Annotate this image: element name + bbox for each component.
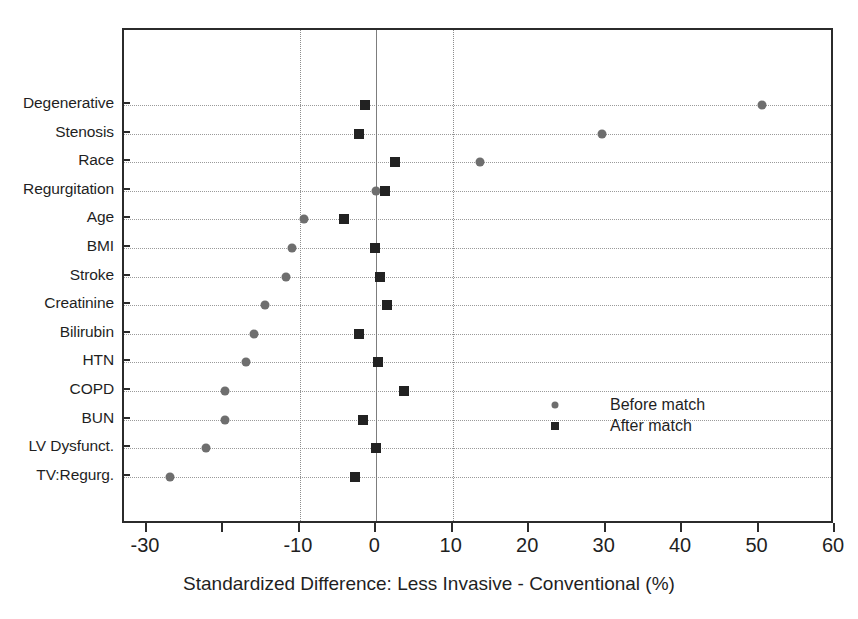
x-axis-tick — [680, 523, 682, 532]
y-axis-tick — [122, 216, 130, 218]
data-point-before-match — [282, 272, 291, 281]
data-point-after-match — [399, 386, 409, 396]
horizontal-gridline — [124, 448, 831, 449]
data-point-before-match — [220, 415, 229, 424]
chart-figure: DegenerativeStenosisRaceRegurgitationAge… — [0, 0, 858, 619]
data-point-before-match — [242, 358, 251, 367]
data-point-after-match — [339, 214, 349, 224]
data-point-after-match — [375, 272, 385, 282]
legend-item-before-match: Before match — [545, 394, 775, 415]
legend-item-after-match: After match — [545, 415, 775, 436]
data-point-before-match — [249, 329, 258, 338]
y-axis-tick — [122, 274, 130, 276]
y-axis-label: Degenerative — [23, 94, 114, 112]
data-point-after-match — [354, 129, 364, 139]
horizontal-gridline — [124, 191, 831, 192]
horizontal-gridline — [124, 305, 831, 306]
y-axis-label: HTN — [82, 351, 114, 369]
data-point-before-match — [165, 472, 174, 481]
y-axis-tick — [122, 474, 130, 476]
x-axis-tick — [221, 523, 223, 532]
horizontal-gridline — [124, 105, 831, 106]
data-point-before-match — [475, 158, 484, 167]
reference-line-dotted — [300, 30, 301, 521]
plot-area — [122, 28, 833, 523]
legend-label-before-match: Before match — [610, 396, 705, 414]
x-axis-tick — [298, 523, 300, 532]
data-point-before-match — [597, 129, 606, 138]
x-axis-tick-label: -10 — [283, 534, 312, 557]
data-point-after-match — [380, 186, 390, 196]
data-point-after-match — [360, 100, 370, 110]
y-axis-tick — [122, 445, 130, 447]
data-point-before-match — [758, 101, 767, 110]
x-axis-tick-label: 30 — [593, 534, 615, 557]
x-axis-tick — [451, 523, 453, 532]
data-point-before-match — [372, 186, 381, 195]
circle-marker-icon — [552, 401, 559, 408]
x-axis-tick — [527, 523, 529, 532]
horizontal-gridline — [124, 248, 831, 249]
y-axis-label: Stenosis — [55, 123, 114, 141]
y-axis-tick — [122, 102, 130, 104]
x-axis-tick — [374, 523, 376, 532]
y-axis-labels: DegenerativeStenosisRaceRegurgitationAge… — [0, 28, 114, 523]
y-axis-label: Stroke — [70, 266, 114, 284]
x-axis-tick-label: 50 — [745, 534, 767, 557]
x-axis-tick-label: -30 — [130, 534, 159, 557]
x-axis-tick-label: 40 — [669, 534, 691, 557]
x-axis-tick — [757, 523, 759, 532]
data-point-before-match — [288, 244, 297, 253]
x-axis-tick-label: 10 — [440, 534, 462, 557]
legend-label-after-match: After match — [610, 417, 692, 435]
data-point-before-match — [261, 301, 270, 310]
horizontal-gridline — [124, 391, 831, 392]
data-point-before-match — [201, 444, 210, 453]
data-point-after-match — [390, 157, 400, 167]
data-point-after-match — [354, 329, 364, 339]
y-axis-label: TV:Regurg. — [36, 466, 114, 484]
x-axis-tick-label: 0 — [369, 534, 380, 557]
horizontal-gridline — [124, 134, 831, 135]
reference-line-dotted — [453, 30, 454, 521]
x-axis-tick — [145, 523, 147, 532]
y-axis-label: Regurgitation — [23, 180, 114, 198]
y-axis-label: Creatinine — [44, 294, 114, 312]
horizontal-gridline — [124, 477, 831, 478]
square-marker-icon — [551, 422, 559, 430]
y-axis-tick — [122, 359, 130, 361]
y-axis-label: BMI — [87, 237, 114, 255]
y-axis-tick — [122, 188, 130, 190]
chart-legend: Before match After match — [545, 394, 775, 436]
y-axis-label: LV Dysfunct. — [28, 437, 114, 455]
x-axis-tick-label: 20 — [516, 534, 538, 557]
y-axis-label: Age — [87, 208, 114, 226]
horizontal-gridline — [124, 334, 831, 335]
y-axis-tick — [122, 131, 130, 133]
y-axis-tick — [122, 159, 130, 161]
data-point-after-match — [370, 243, 380, 253]
y-axis-tick — [122, 302, 130, 304]
data-point-before-match — [299, 215, 308, 224]
x-axis-tick-label: 60 — [822, 534, 844, 557]
horizontal-gridline — [124, 362, 831, 363]
data-point-after-match — [371, 443, 381, 453]
data-point-after-match — [373, 357, 383, 367]
data-point-after-match — [358, 415, 368, 425]
horizontal-gridline — [124, 277, 831, 278]
data-point-after-match — [382, 300, 392, 310]
y-axis-label: BUN — [82, 409, 114, 427]
y-axis-tick — [122, 331, 130, 333]
x-axis-tick — [833, 523, 835, 532]
y-axis-label: Race — [78, 151, 114, 169]
y-axis-tick — [122, 245, 130, 247]
data-point-before-match — [220, 387, 229, 396]
y-axis-tick — [122, 417, 130, 419]
horizontal-gridline — [124, 219, 831, 220]
x-axis-title: Standardized Difference: Less Invasive -… — [0, 573, 858, 595]
y-axis-tick — [122, 388, 130, 390]
data-point-after-match — [350, 472, 360, 482]
x-axis-tick — [604, 523, 606, 532]
y-axis-label: Bilirubin — [60, 323, 114, 341]
y-axis-label: COPD — [70, 380, 114, 398]
